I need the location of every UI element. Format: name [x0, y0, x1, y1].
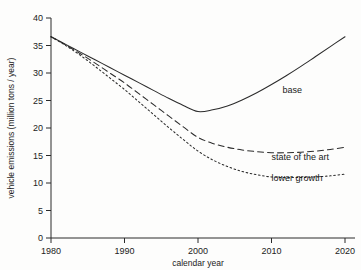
y-axis-ticks: 0510152025303540 [33, 13, 51, 243]
chart-figure: 0510152025303540 19801990200020102020 ba… [0, 0, 361, 270]
series-annotations: basestate of the artlower growth [272, 85, 330, 183]
y-tick-label: 0 [38, 233, 43, 243]
series-line-base [51, 37, 345, 112]
y-tick-label: 35 [33, 41, 43, 51]
y-tick-label: 10 [33, 178, 43, 188]
x-axis-title: calendar year [172, 258, 224, 268]
y-tick-label: 40 [33, 13, 43, 23]
y-tick-label: 15 [33, 151, 43, 161]
series-label-base: base [283, 85, 303, 95]
y-axis-title: vehicle emissions (million tons / year) [6, 57, 16, 198]
x-tick-label: 1980 [41, 246, 61, 256]
y-tick-label: 30 [33, 68, 43, 78]
x-axis-ticks: 19801990200020102020 [41, 238, 355, 256]
y-tick-label: 20 [33, 123, 43, 133]
series-label-lower-growth: lower growth [272, 173, 323, 183]
series-label-state-of-the-art: state of the art [272, 152, 330, 162]
line-chart-plot: 0510152025303540 19801990200020102020 ba… [0, 0, 361, 270]
y-tick-label: 25 [33, 96, 43, 106]
y-tick-label: 5 [38, 206, 43, 216]
x-tick-label: 1990 [114, 246, 134, 256]
x-tick-label: 2020 [335, 246, 355, 256]
x-tick-label: 2010 [261, 246, 281, 256]
x-tick-label: 2000 [188, 246, 208, 256]
